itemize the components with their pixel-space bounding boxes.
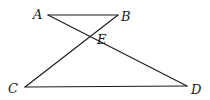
label-c: C <box>8 81 18 96</box>
label-e: E <box>96 32 107 47</box>
segment-cd <box>25 86 187 87</box>
label-a: A <box>32 7 42 22</box>
segment-ad <box>48 15 187 86</box>
segment-bc <box>25 15 118 87</box>
figure-svg: A B E C D <box>0 0 210 100</box>
label-b: B <box>120 9 131 24</box>
geometry-figure: A B E C D <box>0 0 210 100</box>
label-d: D <box>190 82 202 97</box>
